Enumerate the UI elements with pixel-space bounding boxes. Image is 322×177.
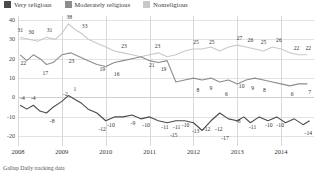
data-point-label: -10 [276, 122, 283, 128]
y-axis-tick-label: 40 [9, 17, 15, 23]
data-point-label: -15 [170, 132, 177, 138]
y-axis-tick-label: -10 [7, 114, 15, 120]
y-axis-tick-label: 20 [9, 56, 15, 62]
y-axis-tick-label: 10 [9, 75, 15, 81]
data-point-label: 25 [209, 39, 215, 45]
data-point-label: -4 [31, 95, 36, 101]
data-point-label: -8 [50, 118, 55, 124]
data-point-label: -9 [131, 120, 136, 126]
data-point-label: 33 [82, 23, 88, 29]
data-point-label: 6 [225, 91, 228, 97]
data-point-label: 25 [193, 39, 199, 45]
data-point-label: 10 [239, 83, 245, 89]
legend-item-moderate: Moderately religious [65, 1, 131, 8]
data-point-label: 19 [161, 66, 167, 72]
data-point-label: -10 [107, 122, 114, 128]
x-axis-tick-label: 2009 [55, 148, 68, 155]
x-axis-tick-label: 2013 [231, 148, 244, 155]
data-point-label: 31 [47, 27, 53, 33]
x-axis-labels: 2008200920102011201220132014 [18, 148, 314, 158]
y-axis-tick-label: -20 [7, 133, 15, 139]
data-point-label: -11 [249, 124, 256, 130]
data-point-label: -2 [63, 91, 68, 97]
data-point-label: 17 [42, 70, 48, 76]
data-point-label: -13 [192, 128, 199, 134]
legend-item-very: Very religious [4, 1, 52, 8]
x-axis-tick-label: 2010 [99, 148, 112, 155]
data-point-label: 25 [261, 39, 267, 45]
y-axis-tick-label: 0 [12, 94, 15, 100]
data-point-label: 22 [294, 45, 300, 51]
y-axis-tick-label: 30 [9, 36, 15, 42]
legend-swatch-icon [4, 1, 11, 8]
legend-label: Very religious [14, 1, 52, 8]
data-point-label: 23 [155, 43, 161, 49]
data-point-label: 22 [20, 60, 26, 66]
data-point-label: -8 [236, 118, 241, 124]
data-point-label: 23 [121, 43, 127, 49]
data-point-label: 9 [210, 85, 213, 91]
y-axis-labels: 403020100-10-20 [0, 16, 17, 146]
data-point-label: 9 [251, 85, 254, 91]
x-axis-tick-label: 2012 [187, 148, 200, 155]
data-point-label: -12 [203, 126, 210, 132]
legend-swatch-icon [143, 1, 150, 8]
data-point-label: 16 [114, 71, 120, 77]
chart-container: Very religiousModerately religiousNonrel… [0, 0, 322, 177]
data-point-label: -11 [161, 124, 168, 130]
data-point-label: 8 [263, 87, 266, 93]
data-point-label: -10 [182, 122, 189, 128]
data-point-label: -12 [215, 126, 222, 132]
data-point-label: -14 [305, 130, 312, 136]
data-point-label: -4 [20, 95, 25, 101]
data-point-label: 22 [306, 45, 312, 51]
data-point-label: 26 [276, 37, 282, 43]
legend-swatch-icon [65, 1, 72, 8]
source-note: Gallup Daily tracking data [3, 165, 65, 171]
data-point-label: -10 [265, 122, 272, 128]
legend-label: Nonreligious [153, 1, 188, 8]
data-point-label: 6 [291, 91, 294, 97]
x-axis-tick-label: 2014 [275, 148, 288, 155]
data-point-label: 19 [99, 66, 105, 72]
data-point-label: 23 [69, 58, 75, 64]
data-point-label: 38 [67, 14, 73, 20]
data-point-label: 27 [237, 35, 243, 41]
plot-area: 3130313833232325252726252622222217231916… [18, 16, 314, 146]
data-point-label: -17 [221, 135, 228, 141]
x-axis-tick-label: 2008 [12, 148, 25, 155]
data-point-label: 1 [74, 86, 77, 92]
data-point-label: 30 [28, 29, 34, 35]
data-point-label: 7 [308, 89, 311, 95]
data-point-label: -12 [98, 126, 105, 132]
data-point-label: 8 [196, 87, 199, 93]
legend-label: Moderately religious [75, 1, 131, 8]
chart-legend: Very religiousModerately religiousNonrel… [4, 1, 201, 8]
data-point-label: -10 [142, 122, 149, 128]
legend-item-non: Nonreligious [143, 1, 188, 8]
data-point-label: 21 [149, 62, 155, 68]
data-point-label: 26 [248, 37, 254, 43]
x-axis-tick-label: 2011 [143, 148, 156, 155]
data-point-label: 31 [17, 27, 23, 33]
data-point-label: -11 [173, 124, 180, 130]
